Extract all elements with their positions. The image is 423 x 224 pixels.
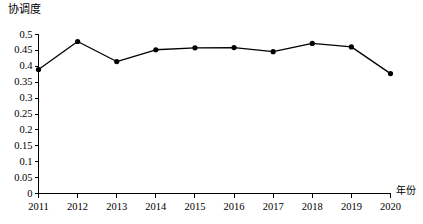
data-point-marker bbox=[388, 71, 393, 76]
data-point-marker bbox=[153, 47, 158, 52]
y-axis-tick-label: 0.15 bbox=[3, 140, 33, 151]
y-axis-tick-label: 0.3 bbox=[3, 92, 33, 103]
y-axis-tick-label: 0.25 bbox=[3, 108, 33, 119]
coordination-degree-line-chart: 协调度 年份 00.050.10.150.20.250.30.350.40.45… bbox=[0, 0, 423, 224]
y-axis-tick-label: 0.4 bbox=[3, 60, 33, 71]
y-axis-tick-label: 0 bbox=[3, 188, 33, 199]
x-axis-tick-label: 2012 bbox=[58, 201, 98, 212]
y-axis-tick-label: 0.5 bbox=[3, 29, 33, 40]
x-axis-tick-label: 2011 bbox=[19, 201, 59, 212]
y-axis-tick-label: 0.05 bbox=[3, 172, 33, 183]
x-axis-tick-label: 2015 bbox=[175, 201, 215, 212]
data-point-marker bbox=[36, 67, 41, 72]
x-axis-ticks bbox=[39, 194, 391, 198]
data-point-markers bbox=[36, 39, 393, 76]
axis-lines bbox=[39, 35, 391, 194]
x-axis-tick-label: 2016 bbox=[214, 201, 254, 212]
plot-area bbox=[0, 0, 423, 224]
x-axis-tick-label: 2019 bbox=[331, 201, 371, 212]
data-point-marker bbox=[231, 45, 236, 50]
data-point-marker bbox=[349, 44, 354, 49]
x-axis-tick-label: 2017 bbox=[253, 201, 293, 212]
y-axis-tick-label: 0.35 bbox=[3, 76, 33, 87]
data-point-marker bbox=[310, 41, 315, 46]
y-axis-tick-label: 0.45 bbox=[3, 44, 33, 55]
data-point-marker bbox=[192, 45, 197, 50]
y-axis-tick-label: 0.2 bbox=[3, 124, 33, 135]
x-axis-tick-label: 2014 bbox=[136, 201, 176, 212]
x-axis-tick-label: 2020 bbox=[371, 201, 411, 212]
x-axis-tick-label: 2013 bbox=[97, 201, 137, 212]
y-axis-tick-label: 0.1 bbox=[3, 156, 33, 167]
data-point-marker bbox=[75, 39, 80, 44]
y-axis-ticks bbox=[35, 35, 39, 194]
data-point-marker bbox=[271, 49, 276, 54]
x-axis-tick-label: 2018 bbox=[292, 201, 332, 212]
data-series-line bbox=[39, 42, 391, 74]
data-point-marker bbox=[114, 59, 119, 64]
